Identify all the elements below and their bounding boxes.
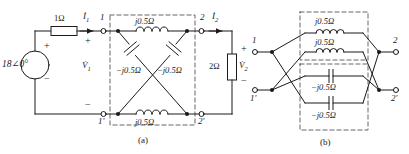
terminal-dot-2pb xyxy=(394,88,399,93)
current-i2-label: İ2 xyxy=(212,12,218,23)
terminal-label-2b: 2 xyxy=(393,36,398,45)
terminal-label-1pb: 1′ xyxy=(250,94,256,103)
resistor-2ohm-label: 2Ω xyxy=(209,62,220,71)
resistor-1ohm-body xyxy=(51,27,77,36)
capacitor-top-b xyxy=(305,70,363,83)
terminal-label-1a: 1 xyxy=(100,13,105,22)
caption-a: (a) xyxy=(138,136,148,145)
resistor-1ohm-label: 1Ω xyxy=(54,14,65,23)
wire-b-lt-to-ind-top xyxy=(272,33,305,52)
inductor-bottom-b-label: j0.5Ω xyxy=(315,38,334,47)
current-arrow-i2 xyxy=(209,28,222,33)
terminal-label-2a: 2 xyxy=(200,13,205,22)
circuit-schematic-svg xyxy=(0,0,409,154)
terminal-dot-2b xyxy=(394,50,399,55)
resistor-2ohm-body xyxy=(228,54,237,80)
inductor-top-a-label: j0.5Ω xyxy=(135,17,154,26)
terminal-label-1b: 1 xyxy=(252,36,257,45)
inductor-top-b xyxy=(305,30,363,34)
inductor-top-b-label: j0.5Ω xyxy=(315,17,334,26)
v2-plus-sign: + xyxy=(241,44,247,54)
terminal-dot-2a xyxy=(199,29,204,34)
current-arrow-i1 xyxy=(80,28,93,33)
terminal-dot-1a xyxy=(101,29,106,34)
v1-plus-sign: + xyxy=(85,36,91,46)
wire-b-ind-bot-to-rb xyxy=(363,52,379,90)
inductor-top-a xyxy=(118,27,187,31)
wire-b-ind-top-to-rt xyxy=(363,33,379,52)
v2-minus-sign: − xyxy=(241,76,247,86)
terminal-label-1pa: 1′ xyxy=(98,117,104,126)
circuit-figure: 18∠0° + − 1Ω İ1 1 1′ 2 2′ + V̇1 − j0.5Ω… xyxy=(0,0,409,154)
capacitor-dashed-box-b xyxy=(300,64,368,130)
source-minus-sign: − xyxy=(44,74,50,84)
terminal-label-2pb: 2′ xyxy=(391,94,397,103)
voltage-v1-label: V̇1 xyxy=(82,61,91,72)
terminal-label-2pa: 2′ xyxy=(198,117,204,126)
v1-minus-sign: − xyxy=(85,100,91,110)
terminal-dot-1b xyxy=(253,50,258,55)
inductor-bottom-a-label: j0.5Ω xyxy=(135,118,154,127)
capacitor-top-b-label: −j0.5Ω xyxy=(311,83,336,92)
caption-b: (b) xyxy=(320,138,331,147)
source-plus-sign: + xyxy=(44,41,50,51)
terminal-dot-1pb xyxy=(253,88,258,93)
capacitor-bottom-b-label: −j0.5Ω xyxy=(311,111,336,120)
source-label: 18∠0° xyxy=(2,60,28,70)
capacitor-bottom-b xyxy=(305,97,363,110)
inductor-bottom-a xyxy=(118,110,187,114)
capacitor-right-a-label: −j0.5Ω xyxy=(157,66,182,75)
voltage-v2-label: V̇2 xyxy=(239,61,248,72)
capacitor-left-a-label: −j0.5Ω xyxy=(116,66,141,75)
current-i1-label: İ1 xyxy=(83,12,89,23)
inductor-bottom-b xyxy=(305,49,363,53)
